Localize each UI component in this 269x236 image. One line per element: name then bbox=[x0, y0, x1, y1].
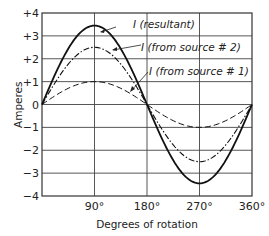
annotation-source1: I (from source # 1) bbox=[130, 65, 249, 92]
x-tick-label: 270° bbox=[186, 200, 213, 213]
y-axis-ticks: +4+3+2+10−1−2−3−4 bbox=[23, 7, 39, 203]
y-tick-label: +4 bbox=[23, 7, 39, 20]
y-tick-label: +3 bbox=[23, 30, 39, 43]
y-tick-label: +1 bbox=[23, 76, 39, 89]
x-axis-label: Degrees of rotation bbox=[96, 218, 198, 230]
x-tick-label: 360° bbox=[239, 200, 266, 213]
x-tick-label: 90° bbox=[85, 200, 105, 213]
sine-wave-chart: +4+3+2+10−1−2−3−4 90°180°270°360° Ampere… bbox=[0, 0, 269, 236]
y-tick-label: −3 bbox=[23, 167, 39, 180]
annotation-resultant-label: I (resultant) bbox=[133, 18, 195, 30]
y-tick-label: −4 bbox=[23, 190, 39, 203]
x-axis-ticks: 90°180°270°360° bbox=[85, 200, 266, 213]
y-tick-label: 0 bbox=[32, 99, 39, 112]
annotation-source1-label: I (from source # 1) bbox=[149, 65, 249, 77]
annotation-source2-label: I (from source # 2) bbox=[141, 41, 241, 53]
y-axis-label: Amperes bbox=[12, 81, 24, 128]
annotation-source2: I (from source # 2) bbox=[112, 41, 241, 53]
x-tick-label: 180° bbox=[134, 200, 161, 213]
y-tick-label: −1 bbox=[23, 121, 39, 134]
y-tick-label: −2 bbox=[23, 144, 39, 157]
y-tick-label: +2 bbox=[23, 53, 39, 66]
